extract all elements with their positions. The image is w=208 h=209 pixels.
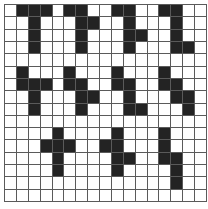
grid-cell xyxy=(53,104,65,116)
grid-cell xyxy=(195,165,207,177)
shape-6-cell xyxy=(64,79,76,91)
shape-8-cell xyxy=(159,67,171,79)
grid-cell xyxy=(195,190,207,202)
grid-cell xyxy=(159,165,171,177)
shape-1-cell xyxy=(29,17,41,29)
shape-2-cell xyxy=(76,30,88,42)
grid-cell xyxy=(136,54,148,66)
shape-3-cell xyxy=(124,30,136,42)
grid-cell xyxy=(100,54,112,66)
grid-cell xyxy=(136,153,148,165)
shape-11-cell xyxy=(159,153,171,165)
grid-cell xyxy=(148,91,160,103)
shape-7-cell xyxy=(136,104,148,116)
grid-cell xyxy=(136,165,148,177)
grid-cell xyxy=(64,17,76,29)
grid-cell xyxy=(76,54,88,66)
grid-cell xyxy=(17,128,29,140)
grid-cell xyxy=(148,30,160,42)
grid-cell xyxy=(183,67,195,79)
grid-cell xyxy=(159,91,171,103)
grid-cell xyxy=(88,140,100,152)
grid-cell xyxy=(112,42,124,54)
grid-cell xyxy=(64,42,76,54)
grid-cell xyxy=(17,190,29,202)
grid-cell xyxy=(41,42,53,54)
grid-cell xyxy=(171,104,183,116)
shape-10-cell xyxy=(112,140,124,152)
grid-cell xyxy=(100,153,112,165)
grid-cell xyxy=(183,140,195,152)
shape-5-cell xyxy=(17,79,29,91)
shape-4-cell xyxy=(171,30,183,42)
grid-cell xyxy=(88,54,100,66)
grid-cell xyxy=(17,17,29,29)
grid-cell xyxy=(136,67,148,79)
shape-3-cell xyxy=(124,42,136,54)
grid-cell xyxy=(5,42,17,54)
grid-cell xyxy=(29,128,41,140)
grid-cell xyxy=(64,116,76,128)
shape-5-cell xyxy=(29,79,41,91)
grid-cell xyxy=(64,153,76,165)
grid-cell xyxy=(195,5,207,17)
grid-cell xyxy=(41,116,53,128)
shape-3-cell xyxy=(136,30,148,42)
shape-1-cell xyxy=(17,5,29,17)
grid-cell xyxy=(148,42,160,54)
shape-10-cell xyxy=(112,165,124,177)
shape-10-cell xyxy=(124,153,136,165)
grid-cell xyxy=(100,190,112,202)
grid-cell xyxy=(53,54,65,66)
shape-5-cell xyxy=(29,104,41,116)
grid-cell xyxy=(171,128,183,140)
grid-cell xyxy=(41,91,53,103)
grid-cell xyxy=(29,153,41,165)
grid-cell xyxy=(64,104,76,116)
grid-cell xyxy=(5,128,17,140)
grid-cell xyxy=(148,128,160,140)
grid-cell xyxy=(88,30,100,42)
grid-cell xyxy=(88,165,100,177)
grid-cell xyxy=(53,190,65,202)
grid-cell xyxy=(183,17,195,29)
grid-cell xyxy=(76,128,88,140)
grid-cell xyxy=(171,67,183,79)
grid-cell xyxy=(171,54,183,66)
grid-cell xyxy=(29,116,41,128)
shape-6-cell xyxy=(76,104,88,116)
grid-cell xyxy=(76,140,88,152)
grid-cell xyxy=(100,177,112,189)
shape-10-cell xyxy=(100,140,112,152)
shape-2-cell xyxy=(76,42,88,54)
shape-1-cell xyxy=(41,5,53,17)
grid-cell xyxy=(5,165,17,177)
grid-cell xyxy=(171,116,183,128)
shape-7-cell xyxy=(112,79,124,91)
grid-cell xyxy=(136,116,148,128)
shape-2-cell xyxy=(76,17,88,29)
grid-cell xyxy=(64,91,76,103)
grid-cell xyxy=(100,5,112,17)
grid-cell xyxy=(17,140,29,152)
grid-cell xyxy=(5,177,17,189)
grid-cell xyxy=(124,116,136,128)
grid-cell xyxy=(17,42,29,54)
grid-cell xyxy=(5,67,17,79)
grid-cell xyxy=(53,116,65,128)
grid-cell xyxy=(124,54,136,66)
shape-1-cell xyxy=(29,30,41,42)
grid-cell xyxy=(53,67,65,79)
grid-cell xyxy=(17,54,29,66)
grid-cell xyxy=(195,30,207,42)
shape-4-cell xyxy=(171,42,183,54)
grid-cell xyxy=(159,104,171,116)
grid-cell xyxy=(5,116,17,128)
grid-cell xyxy=(148,165,160,177)
shape-9-cell xyxy=(53,140,65,152)
shape-8-cell xyxy=(171,91,183,103)
shape-8-cell xyxy=(183,91,195,103)
grid-cell xyxy=(53,42,65,54)
shape-11-cell xyxy=(159,128,171,140)
grid-cell xyxy=(112,104,124,116)
